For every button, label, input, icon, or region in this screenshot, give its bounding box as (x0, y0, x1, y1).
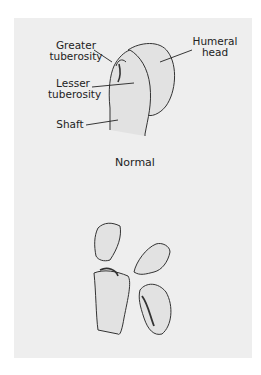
label-shaft: Shaft (54, 119, 86, 130)
normal-humerus-drawing (109, 44, 174, 137)
caption-normal: Normal (110, 157, 160, 168)
fractured-humerus-drawing (94, 223, 171, 334)
label-humeral-head: Humeral head (188, 36, 242, 58)
label-greater-tuberosity: Greater tuberosity (46, 40, 106, 62)
label-line: tuberosity (48, 89, 98, 100)
label-line: head (188, 47, 242, 58)
label-line: tuberosity (46, 51, 106, 62)
label-lesser-tuberosity: Lesser tuberosity (48, 78, 98, 100)
